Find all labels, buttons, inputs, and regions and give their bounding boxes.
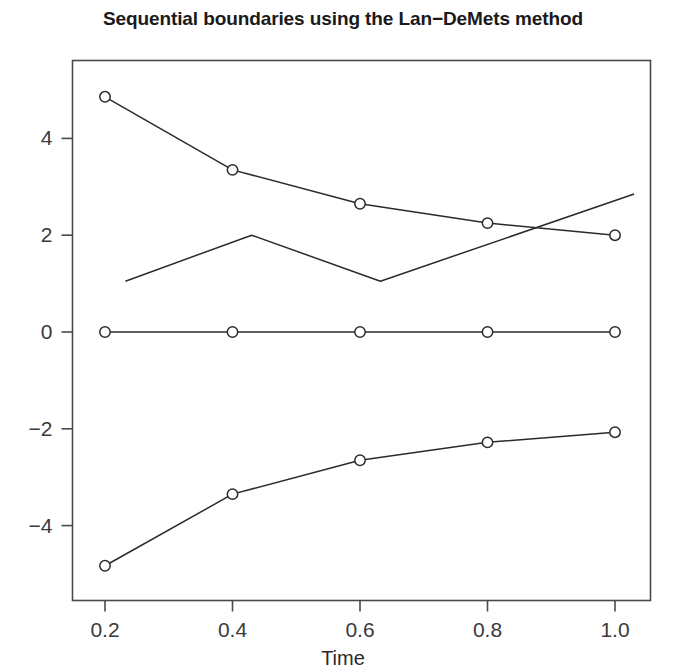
data-point-marker [100,561,110,571]
data-point-marker [355,199,365,209]
data-point-marker [482,327,492,337]
x-tick-label: 0.8 [473,618,502,641]
data-point-marker [610,230,620,240]
data-point-marker [227,327,237,337]
x-tick-label: 1.0 [600,618,629,641]
y-tick-label: 0 [41,320,53,343]
x-tick-label: 0.2 [90,618,119,641]
x-tick-label: 0.6 [345,618,374,641]
series-line [105,432,615,566]
y-tick-label: −4 [29,514,53,537]
data-point-marker [100,327,110,337]
series-line [105,97,615,235]
data-point-marker [482,218,492,228]
y-tick-label: −2 [29,417,53,440]
data-point-marker [482,437,492,447]
data-point-marker [355,327,365,337]
data-point-marker [610,327,620,337]
x-axis-ticks: 0.20.40.60.81.0 [90,601,629,641]
chart-page: Sequential boundaries using the Lan−DeMe… [0,0,686,672]
x-axis-title: Time [321,647,365,669]
y-tick-label: 4 [41,126,53,149]
data-point-marker [227,165,237,175]
data-point-marker [355,455,365,465]
x-tick-label: 0.4 [218,618,248,641]
data-point-marker [100,92,110,102]
data-point-marker [610,427,620,437]
chart-plot-area: 0.20.40.60.81.0 420−2−4 Time [0,0,686,672]
data-point-marker [227,489,237,499]
y-axis-ticks: 420−2−4 [29,126,73,536]
data-series-layer [100,92,634,571]
y-tick-label: 2 [41,223,53,246]
